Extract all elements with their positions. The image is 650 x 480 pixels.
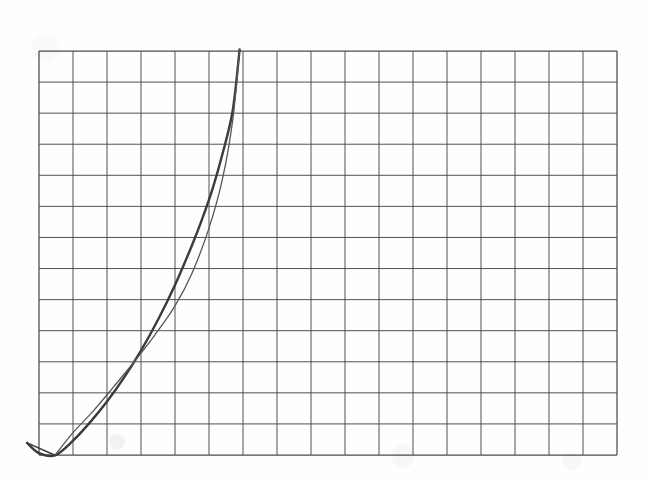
figure-container bbox=[0, 0, 650, 480]
graph-plot bbox=[0, 0, 650, 480]
paper-background bbox=[0, 0, 650, 480]
